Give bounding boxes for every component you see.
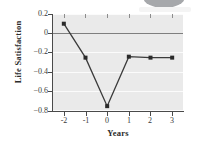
- data-point--1: [84, 56, 88, 60]
- data-point-2: [149, 56, 153, 60]
- data-point--2: [62, 22, 66, 26]
- data-point-3: [170, 56, 174, 60]
- series-overlay: [0, 0, 199, 142]
- data-point-0: [105, 104, 109, 108]
- series-markers: [62, 22, 174, 108]
- chart-figure: 0.2 0 −0.2 −0.4 −0.6 −0.8 -2 -1 0 1 2 3 …: [0, 0, 199, 142]
- data-point-1: [127, 55, 131, 59]
- series-line-life-satisfaction: [64, 24, 172, 106]
